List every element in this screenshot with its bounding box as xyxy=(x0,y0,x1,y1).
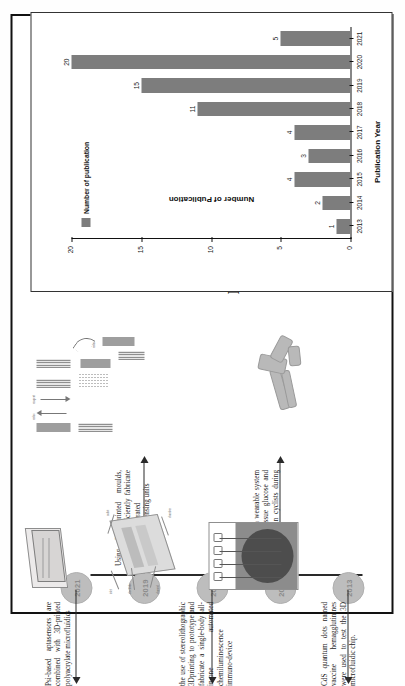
device-body-shape xyxy=(109,514,175,576)
strip-striped xyxy=(36,359,70,368)
chart-y-tick xyxy=(71,237,72,242)
chart-x-tick-label: 2021 xyxy=(355,26,362,52)
chart-bar-value: 4 xyxy=(285,122,292,144)
electrode-wire xyxy=(219,577,281,578)
thumbnail-immuno-device-2017: inlet electrode channel outlet chamber xyxy=(98,502,184,594)
chart-bar-value: 3 xyxy=(299,145,306,167)
timeline-caption-2013: CdS quantum dots named vaccine hemagglut… xyxy=(320,602,358,686)
timeline-branch-2021 xyxy=(75,590,76,678)
chart-x-tick xyxy=(349,85,353,86)
strip-label-up: redox xyxy=(32,414,35,421)
module-shape xyxy=(287,345,301,366)
strip-label-caption: redox xyxy=(92,342,95,349)
electrode-wire xyxy=(219,551,281,552)
chart-bar-value: 20 xyxy=(62,51,69,73)
chart-y-tick-label: 5 xyxy=(275,246,282,268)
chart-y-tick-label: 0 xyxy=(345,246,352,268)
chart-y-tick-label: 15 xyxy=(136,246,143,268)
thumbnail-microfluidic-chip-2013 xyxy=(22,520,74,592)
chart-bar-value: 5 xyxy=(271,28,278,50)
chart-x-tick xyxy=(349,38,353,39)
strip-striped xyxy=(118,351,144,360)
chart-bar xyxy=(336,219,350,234)
device-label-inlet: inlet xyxy=(109,589,112,594)
chart-x-tick xyxy=(349,155,353,156)
chart-bar xyxy=(197,102,350,117)
chart-bar xyxy=(280,31,350,46)
chart-x-tick xyxy=(349,132,353,133)
device-label-channel: channel xyxy=(156,585,159,594)
chart-x-tick-label: 2020 xyxy=(355,49,362,75)
strip-solid xyxy=(80,359,110,368)
electrode-wire xyxy=(219,538,281,539)
timeline-caption-2017: the use of stereolithographic 3Dprinting… xyxy=(178,602,234,686)
chart-bar xyxy=(322,196,350,211)
panel-b-chart: Number of publication Number of Publicat… xyxy=(30,12,392,292)
chart-bar-value: 15 xyxy=(132,75,139,97)
figure-frame: A 2013 2015 2017 2019 2021 xyxy=(10,14,393,614)
thumbnail-electrode-chip-2021 xyxy=(208,522,298,590)
chart-x-axis-label: Publication Year xyxy=(372,13,381,291)
chart-bar-value: 1 xyxy=(327,215,334,237)
chart-y-tick xyxy=(211,237,212,242)
chart-x-tick xyxy=(349,108,353,109)
chart-x-tick xyxy=(349,61,353,62)
chart-bar-value: 11 xyxy=(188,98,195,120)
chart-bar xyxy=(294,172,350,187)
chart-x-tick-label: 2016 xyxy=(355,143,362,169)
strip-striped xyxy=(78,423,112,432)
chart-y-tick xyxy=(350,237,351,242)
chart-y-tick xyxy=(280,237,281,242)
chart-y-tick-label: 10 xyxy=(206,246,213,268)
chart-bar xyxy=(294,125,350,140)
strip-solid xyxy=(102,337,134,346)
chart-bar xyxy=(308,149,350,164)
chart-bar-value: 4 xyxy=(285,168,292,190)
chart-plot-area: Number of Publication 120132201442015320… xyxy=(71,27,351,239)
electrode-wire xyxy=(219,564,281,565)
chart-x-tick xyxy=(349,178,353,179)
chart-y-axis-label: Number of Publication xyxy=(168,195,253,204)
down-arrow-icon xyxy=(40,399,66,400)
chart-x-tick xyxy=(349,202,353,203)
device-leader-line xyxy=(110,571,118,590)
chart-x-tick-label: 2018 xyxy=(355,96,362,122)
chart-bar xyxy=(141,78,350,93)
chart-y-tick xyxy=(141,237,142,242)
strip-label-down: reagent xyxy=(32,395,35,404)
device-label-outlet: outlet xyxy=(106,510,109,516)
chart-bar-value: 2 xyxy=(313,192,320,214)
device-label-electrode: electrode xyxy=(128,583,131,594)
chart-bar xyxy=(71,55,350,70)
illustration-biosensing-strips-2019: redox reagent redox xyxy=(30,324,148,434)
chart-x-tick-label: 2017 xyxy=(355,120,362,146)
chart-x-tick xyxy=(349,225,353,226)
chart-x-tick-label: 2019 xyxy=(355,73,362,99)
device-label-chamber: chamber xyxy=(168,508,171,518)
up-arrow-icon xyxy=(40,413,66,414)
chart-x-tick-label: 2014 xyxy=(355,190,362,216)
chip-channel-line xyxy=(48,538,49,578)
chart-x-tick-label: 2015 xyxy=(355,166,362,192)
chip-channel-line xyxy=(42,538,43,578)
illustration-wearable-arm-2015 xyxy=(244,330,314,416)
timeline-caption-2021: Psi-based aptasensors are combined with … xyxy=(44,602,72,686)
strip-solid xyxy=(36,423,70,432)
chart-x-tick-label: 2013 xyxy=(355,213,362,239)
chart-y-tick-label: 20 xyxy=(66,246,73,268)
particle-cloud xyxy=(78,374,108,388)
strip-striped xyxy=(36,379,70,388)
